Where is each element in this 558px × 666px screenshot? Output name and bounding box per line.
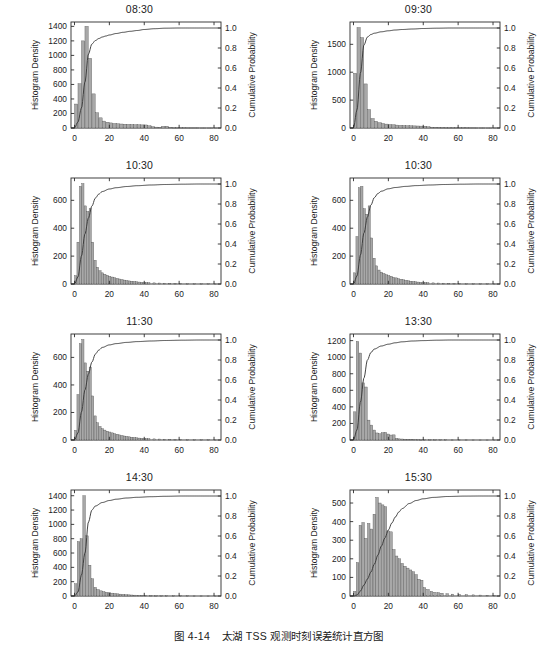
svg-text:500: 500 [332,498,346,508]
plot-frame [350,334,500,440]
svg-text:0.6: 0.6 [504,375,516,385]
svg-text:80: 80 [488,445,498,455]
svg-text:0.8: 0.8 [504,511,516,521]
svg-text:80: 80 [488,601,498,611]
svg-text:60: 60 [453,601,463,611]
svg-text:20: 20 [105,289,115,299]
svg-text:1.0: 1.0 [225,179,237,189]
svg-text:400: 400 [53,562,67,572]
svg-text:0: 0 [72,601,77,611]
svg-text:0.0: 0.0 [504,123,516,133]
svg-text:300: 300 [332,535,346,545]
svg-text:1000: 1000 [327,352,346,362]
svg-text:40: 40 [140,133,150,143]
histogram-panel: 08:3002004006008001000120014000.00.20.40… [0,0,279,156]
panel-plot: 0500100015000.00.20.40.60.81.0020406080H… [279,0,558,156]
histogram-panel: 10:3002004006000.00.20.40.60.81.00204060… [279,156,558,312]
svg-text:400: 400 [332,517,346,527]
svg-text:0.0: 0.0 [225,435,237,445]
left-axis-title: Histogram Density [30,507,40,578]
left-axis-title: Histogram Density [309,507,319,578]
svg-text:200: 200 [53,407,67,417]
svg-text:80: 80 [488,289,498,299]
right-axis-title: Cumulative Probability [247,32,257,118]
svg-text:60: 60 [453,133,463,143]
svg-text:40: 40 [419,601,429,611]
svg-text:20: 20 [105,445,115,455]
svg-text:80: 80 [209,445,219,455]
svg-text:100: 100 [332,572,346,582]
svg-text:600: 600 [53,352,67,362]
svg-text:40: 40 [140,601,150,611]
right-axis-title: Cumulative Probability [247,188,257,274]
svg-text:0.8: 0.8 [225,355,237,365]
svg-text:200: 200 [332,418,346,428]
svg-text:0.2: 0.2 [504,415,516,425]
panel-plot: 02004006000.00.20.40.60.81.0020406080His… [279,156,558,312]
svg-text:0.2: 0.2 [504,259,516,269]
svg-text:500: 500 [332,95,346,105]
svg-text:40: 40 [140,289,150,299]
figure-root: 08:3002004006008001000120014000.00.20.40… [0,0,558,666]
svg-text:200: 200 [332,554,346,564]
panel-title: 14:30 [0,471,279,483]
svg-text:1.0: 1.0 [225,335,237,345]
right-axis-title: Cumulative Probability [247,344,257,430]
svg-text:0: 0 [341,591,346,601]
figure-caption-text: 太湖 TSS 观测时刻误差统计直方图 [222,630,384,642]
histogram-panel: 13:300200400600800100012000.00.20.40.60.… [279,312,558,468]
histogram-panel-grid: 08:3002004006008001000120014000.00.20.40… [0,0,558,624]
svg-text:0.4: 0.4 [225,395,237,405]
svg-text:0.2: 0.2 [225,415,237,425]
figure-caption-number: 图 4-14 [174,630,210,642]
svg-text:0.6: 0.6 [225,375,237,385]
svg-text:400: 400 [53,223,67,233]
panel-plot: 02004006008001000120014000.00.20.40.60.8… [0,468,279,624]
svg-text:0.0: 0.0 [225,123,237,133]
left-axis-title: Histogram Density [30,351,40,422]
svg-text:600: 600 [332,385,346,395]
panel-title: 15:30 [279,471,558,483]
svg-text:0.0: 0.0 [504,435,516,445]
right-axis-title: Cumulative Probability [526,188,536,274]
svg-text:0: 0 [351,445,356,455]
svg-text:600: 600 [53,548,67,558]
panel-title: 08:30 [0,3,279,15]
right-axis-title: Cumulative Probability [526,32,536,118]
svg-text:800: 800 [53,65,67,75]
left-axis-title: Histogram Density [30,39,40,110]
svg-text:40: 40 [419,133,429,143]
svg-text:0: 0 [72,289,77,299]
left-y-axis: 020040060080010001200 [327,336,353,445]
svg-text:0.0: 0.0 [504,279,516,289]
svg-text:800: 800 [332,369,346,379]
svg-text:0: 0 [351,601,356,611]
right-axis-title: Cumulative Probability [526,500,536,586]
svg-text:0.6: 0.6 [504,531,516,541]
svg-text:0.2: 0.2 [225,571,237,581]
svg-text:40: 40 [140,445,150,455]
left-axis-title: Histogram Density [309,39,319,110]
panel-plot: 0200400600800100012000.00.20.40.60.81.00… [279,312,558,468]
histogram-panel: 15:3001002003004005000.00.20.40.60.81.00… [279,468,558,624]
svg-text:200: 200 [53,577,67,587]
right-axis-title: Cumulative Probability [247,500,257,586]
panel-title: 11:30 [0,315,279,327]
svg-text:1200: 1200 [48,505,67,515]
svg-text:20: 20 [105,133,115,143]
svg-text:0.2: 0.2 [225,103,237,113]
svg-text:0: 0 [351,133,356,143]
panel-title: 13:30 [279,315,558,327]
svg-text:200: 200 [53,251,67,261]
svg-text:1400: 1400 [48,491,67,501]
svg-text:20: 20 [384,601,394,611]
svg-text:0.8: 0.8 [225,43,237,53]
left-axis-title: Histogram Density [309,351,319,422]
svg-text:40: 40 [419,445,429,455]
svg-text:0: 0 [72,133,77,143]
svg-text:0.0: 0.0 [225,591,237,601]
svg-text:20: 20 [105,601,115,611]
svg-text:0.4: 0.4 [225,239,237,249]
svg-text:0.4: 0.4 [504,239,516,249]
svg-text:1000: 1000 [327,67,346,77]
